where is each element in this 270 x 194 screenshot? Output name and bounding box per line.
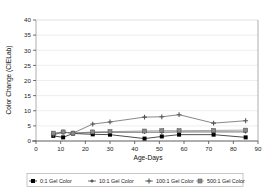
y-tick-label: 25 [24, 62, 31, 69]
legend-label: 100:1 Gel Color [156, 178, 194, 184]
x-tick-label: 80 [230, 145, 237, 152]
x-tick-label: 0 [34, 145, 38, 152]
data-point-marker [61, 135, 65, 139]
legend-label: 0:1 Gel Color [40, 178, 72, 184]
data-point-marker [160, 129, 164, 133]
x-tick-label: 70 [205, 145, 212, 152]
legend-label: 10:1 Gel Color [99, 178, 134, 184]
chart-background [0, 0, 270, 194]
legend-label: 500:1 Gel Color [207, 178, 245, 184]
y-tick-label: 20 [24, 77, 31, 84]
data-point-marker [244, 135, 248, 139]
x-tick-label: 50 [156, 145, 163, 152]
chart-legend: 0:1 Gel Color10:1 Gel Color100:1 Gel Col… [27, 174, 245, 187]
x-tick-label: 10 [57, 145, 64, 152]
y-tick-label: 40 [24, 16, 31, 23]
x-tick-label: 30 [107, 145, 114, 152]
data-point-marker [143, 137, 147, 141]
data-point-marker [198, 179, 202, 183]
x-tick-label: 60 [181, 145, 188, 152]
y-axis-title: Color Change (CIELab) [5, 46, 13, 115]
data-point-marker [108, 130, 112, 134]
x-tick-label: 20 [82, 145, 89, 152]
data-point-marker [143, 129, 147, 133]
data-point-marker [160, 134, 164, 138]
data-point-marker [91, 130, 95, 134]
data-point-marker [61, 130, 65, 134]
y-tick-label: 30 [24, 47, 31, 54]
y-tick-label: 15 [24, 92, 31, 99]
x-tick-label: 90 [255, 145, 262, 152]
y-tick-label: 0 [28, 137, 32, 144]
x-axis-title: Age-Days [134, 154, 164, 162]
y-tick-label: 5 [28, 122, 32, 129]
data-point-marker [51, 131, 55, 135]
color-change-line-chart: 0510152025303540 0102030405060708090 Col… [0, 0, 270, 194]
data-point-marker [177, 129, 181, 133]
data-point-marker [212, 128, 216, 132]
data-point-marker [244, 128, 248, 132]
data-point-marker [31, 179, 35, 183]
y-tick-label: 35 [24, 31, 31, 38]
data-point-marker [71, 131, 75, 135]
y-tick-label: 10 [24, 107, 31, 114]
x-tick-label: 40 [131, 145, 138, 152]
chart-figure: 0510152025303540 0102030405060708090 Col… [0, 0, 270, 194]
